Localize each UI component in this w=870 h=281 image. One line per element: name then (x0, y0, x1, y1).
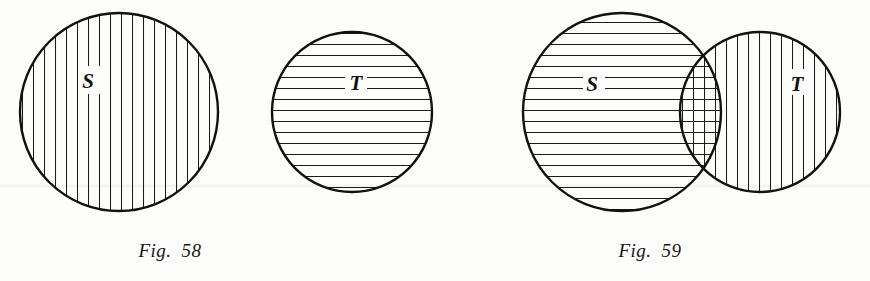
fig59-set-t-label: T (791, 72, 805, 96)
figure-58-group: S T (18, 11, 435, 215)
figure-58-caption: Fig. 58 (110, 240, 230, 262)
fig59-set-s-label: S (586, 72, 598, 96)
figure-illustration: S T S T (0, 0, 870, 281)
fig58-set-t-label: T (350, 71, 364, 95)
figure-59-caption: Fig. 59 (590, 240, 710, 262)
figure-sheet: S T S T Fi (0, 0, 870, 281)
fig58-set-s-label: S (82, 69, 94, 93)
figure-59-group: S T (521, 11, 843, 215)
